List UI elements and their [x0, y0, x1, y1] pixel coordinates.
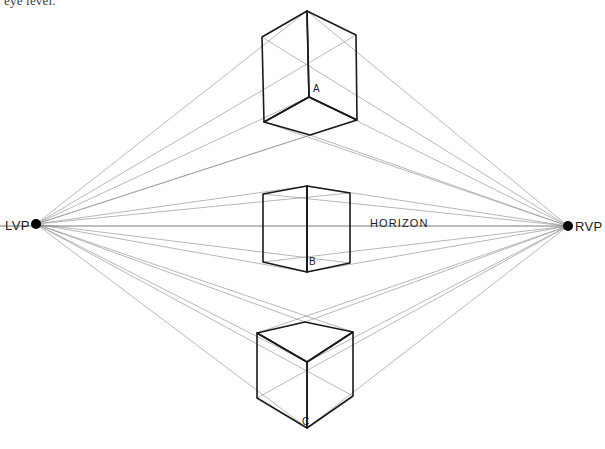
construction-line	[307, 226, 568, 272]
left-vanishing-point-label: LVP	[5, 218, 30, 233]
perspective-canvas: HORIZON LVP RVP A B C	[0, 0, 605, 449]
cube-c-label: C	[302, 416, 309, 427]
cube-a-right-face	[307, 11, 357, 120]
cube-c-left-face	[257, 333, 307, 428]
construction-line	[257, 226, 568, 398]
construction-line	[307, 226, 568, 428]
cube-b-label: B	[309, 256, 316, 267]
right-vanishing-point-label: RVP	[575, 219, 603, 234]
construction-line	[36, 224, 307, 272]
cubes-group	[257, 11, 357, 428]
vanishing-points-group	[31, 219, 573, 231]
lvp-dot	[31, 219, 41, 229]
cube-a-bottom-face	[264, 97, 357, 135]
construction-line	[307, 11, 568, 226]
cube-a-label: A	[313, 83, 320, 94]
construction-line	[36, 224, 305, 322]
construction-line	[257, 226, 568, 333]
perspective-diagram: eye level. HORIZON LVP RVP A B C	[0, 0, 605, 449]
rvp-dot	[563, 221, 573, 231]
construction-line	[36, 224, 307, 362]
cube-c-right-face	[307, 332, 353, 428]
construction-line	[305, 226, 568, 322]
horizon-label: HORIZON	[370, 217, 428, 229]
construction-line	[36, 224, 307, 428]
caption-eye-level: eye level.	[4, 0, 56, 9]
construction-line	[36, 224, 353, 332]
construction-line	[307, 226, 568, 362]
construction-line	[36, 224, 353, 396]
